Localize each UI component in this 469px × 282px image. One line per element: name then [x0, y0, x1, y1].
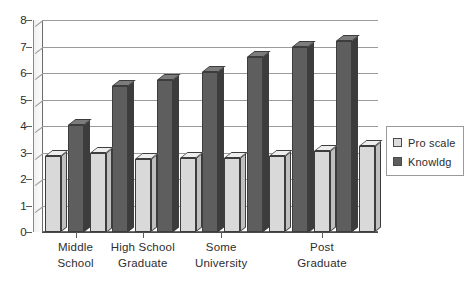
- x-axis-category-label: MiddleSchool: [57, 239, 93, 271]
- x-axis-tick-mark: [76, 232, 77, 238]
- x-axis-labels: MiddleSchoolHigh SchoolGraduateSomeUnive…: [33, 239, 381, 281]
- legend-swatch-pro-scale: [393, 138, 402, 147]
- bar-front-face: [224, 158, 240, 232]
- y-axis-tick-mark: [26, 179, 32, 180]
- bar-front-face: [45, 156, 61, 232]
- bar-pro-scale: [90, 153, 106, 233]
- bar-front-face: [314, 151, 330, 232]
- x-axis-tick-mark: [143, 232, 144, 238]
- bar-front-face: [68, 125, 84, 232]
- x-axis-category-label-line: Some: [195, 239, 247, 255]
- bar-front-face: [359, 146, 375, 232]
- y-axis-tick-mark: [26, 232, 32, 233]
- y-axis: 012345678: [0, 20, 27, 232]
- bar-front-face: [247, 57, 263, 232]
- x-axis-tick-mark: [322, 232, 323, 238]
- bar-front-face: [269, 156, 285, 232]
- bar-knowldg: [68, 125, 84, 232]
- bar-pro-scale: [224, 158, 240, 232]
- bar-knowldg: [247, 57, 263, 232]
- bar-side-face: [61, 152, 67, 232]
- bar-knowldg: [112, 86, 128, 232]
- bar-front-face: [180, 158, 196, 232]
- bar-pro-scale: [359, 146, 375, 232]
- bar-knowldg: [292, 47, 308, 233]
- legend-label-knowldg: Knowldg: [408, 156, 452, 168]
- x-axis-category-label-line: Graduate: [297, 255, 347, 271]
- bar-side-face: [285, 152, 291, 232]
- bar-side-face: [173, 75, 179, 232]
- y-axis-tick-mark: [26, 126, 32, 127]
- legend-item: Pro scale: [393, 133, 463, 152]
- x-axis-tick-mark: [221, 232, 222, 238]
- bar-side-face: [84, 120, 90, 232]
- bar-pro-scale: [314, 151, 330, 232]
- legend-swatch-knowldg: [393, 157, 402, 166]
- y-axis-tick-mark: [26, 100, 32, 101]
- bar-knowldg: [336, 41, 352, 232]
- x-axis-category-label: High SchoolGraduate: [111, 239, 175, 271]
- bar-side-face: [240, 153, 246, 232]
- bar-side-face: [308, 42, 314, 232]
- bar-side-face: [128, 82, 134, 232]
- bar-knowldg: [157, 80, 173, 232]
- x-axis-category-label: SomeUniversity: [195, 239, 247, 271]
- y-axis-tick-mark: [26, 206, 32, 207]
- bar-pro-scale: [45, 156, 61, 232]
- x-axis-category-label: PostGraduate: [297, 239, 347, 271]
- bar-side-face: [151, 154, 157, 232]
- x-axis-category-label-line: School: [57, 255, 93, 271]
- chart-figure: 012345678 MiddleSchoolHigh SchoolGraduat…: [0, 0, 469, 282]
- y-axis-tick-mark: [26, 47, 32, 48]
- bar-front-face: [112, 86, 128, 232]
- chart-legend: Pro scale Knowldg: [386, 126, 464, 176]
- x-axis-category-label-line: Post: [297, 239, 347, 255]
- bar-side-face: [218, 67, 224, 232]
- x-axis-category-label-line: High School: [111, 239, 175, 255]
- legend-item: Knowldg: [393, 152, 463, 171]
- bars-layer: [42, 20, 378, 232]
- bar-side-face: [330, 146, 336, 232]
- bar-side-face: [352, 37, 358, 232]
- bar-pro-scale: [269, 156, 285, 232]
- y-axis-tick-mark: [26, 153, 32, 154]
- bar-pro-scale: [180, 158, 196, 232]
- bar-knowldg: [202, 72, 218, 232]
- bar-front-face: [336, 41, 352, 232]
- legend-label-pro-scale: Pro scale: [408, 137, 456, 149]
- bar-side-face: [196, 153, 202, 232]
- y-axis-tick-mark: [26, 20, 32, 21]
- x-axis-category-label-line: University: [195, 255, 247, 271]
- bar-side-face: [106, 148, 112, 232]
- bar-front-face: [157, 80, 173, 232]
- bar-front-face: [202, 72, 218, 232]
- bar-front-face: [292, 47, 308, 233]
- bar-front-face: [135, 159, 151, 232]
- plot-area: [33, 20, 378, 232]
- x-axis-category-label-line: Graduate: [111, 255, 175, 271]
- y-axis-tick-mark: [26, 73, 32, 74]
- bar-pro-scale: [135, 159, 151, 232]
- bar-front-face: [90, 153, 106, 233]
- bar-side-face: [375, 141, 381, 232]
- x-axis-category-label-line: Middle: [57, 239, 93, 255]
- bar-side-face: [263, 52, 269, 232]
